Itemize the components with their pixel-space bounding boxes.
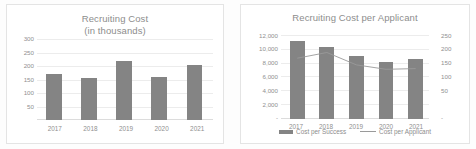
bar-2021[interactable] xyxy=(187,65,203,120)
line-series-cost-per-applicant[interactable] xyxy=(281,35,429,119)
legend-item-cost-per-success[interactable]: Cost per Success xyxy=(279,128,346,135)
legend-label-cost-per-success: Cost per Success xyxy=(296,128,346,135)
bar-2018[interactable] xyxy=(81,78,97,120)
legend-item-cost-per-applicant[interactable]: Cost per Applicant xyxy=(360,128,431,135)
y2-tick-label: 150 xyxy=(441,60,465,66)
legend-label-cost-per-applicant: Cost per Applicant xyxy=(379,128,431,135)
bar-series-recruiting-cost xyxy=(37,39,213,120)
line-path-cost-per-applicant xyxy=(297,53,415,70)
legend-bar-swatch-icon xyxy=(279,130,293,134)
legend-line-swatch-icon xyxy=(360,131,376,132)
y2-tick-label: 50 xyxy=(441,88,465,94)
x-tick-label-2019: 2019 xyxy=(108,125,144,132)
y-tick-label: 12,000 xyxy=(243,33,278,39)
x-tick-label-2021: 2021 xyxy=(179,125,215,132)
chart-panel-recruiting-cost[interactable]: Recruiting Cost (in thousands) 300 250 2… xyxy=(6,4,224,144)
y-tick-label: 300 xyxy=(13,36,34,42)
y2-tick-label: - xyxy=(441,115,465,121)
bar-2020[interactable] xyxy=(151,77,167,120)
plot-area-recruiting-cost xyxy=(37,39,213,120)
x-tick-label-2017: 2017 xyxy=(37,125,73,132)
chart-title-recruiting-cost-per-applicant: Recruiting Cost per Applicant xyxy=(241,12,469,24)
chart-title-recruiting-cost: Recruiting Cost (in thousands) xyxy=(7,13,223,36)
chart-title-line-2: (in thousands) xyxy=(7,25,223,37)
plot-area-recruiting-cost-per-applicant xyxy=(281,35,429,119)
y2-tick-label: 250 xyxy=(441,33,465,39)
y-tick-label: 200 xyxy=(13,63,34,69)
slide-canvas: Recruiting Cost (in thousands) 300 250 2… xyxy=(0,0,476,149)
y-tick-label: 150 xyxy=(13,77,34,83)
chart-title-line-1: Recruiting Cost xyxy=(7,13,223,25)
chart-legend: Cost per Success Cost per Applicant xyxy=(241,128,469,135)
chart-panel-recruiting-cost-per-applicant[interactable]: Recruiting Cost per Applicant 12,000 10,… xyxy=(240,4,470,144)
y-tick-label: - xyxy=(243,115,278,121)
y-tick-label: 2,000 xyxy=(243,102,278,108)
x-tick-label-2020: 2020 xyxy=(144,125,180,132)
y-tick-label: 50 xyxy=(13,104,34,110)
bar-2017[interactable] xyxy=(46,74,62,120)
y2-tick-label: 100 xyxy=(441,74,465,80)
y-tick-label: 8,000 xyxy=(243,60,278,66)
y-tick-label: 250 xyxy=(13,50,34,56)
y-tick-label: 4,000 xyxy=(243,88,278,94)
y-tick-label: 6,000 xyxy=(243,74,278,80)
y-tick-label: 10,000 xyxy=(243,46,278,52)
bar-2019[interactable] xyxy=(116,61,132,120)
y2-tick-label: 200 xyxy=(441,46,465,52)
x-tick-label-2018: 2018 xyxy=(73,125,109,132)
y-tick-label: 100 xyxy=(13,90,34,96)
